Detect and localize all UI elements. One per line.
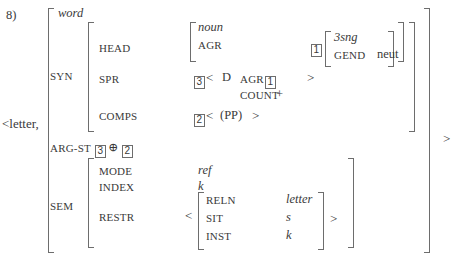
head-bracket-left xyxy=(190,22,196,62)
spr-count-value: + xyxy=(276,87,283,102)
restr-reln-label: RELN xyxy=(206,194,236,206)
restr-inst-label: INST xyxy=(206,230,231,242)
spr-count-label: COUNT xyxy=(240,89,279,101)
syn-bracket-right xyxy=(409,22,415,132)
head-agr-label: AGR xyxy=(198,39,222,51)
restr-inst-value: k xyxy=(286,228,292,243)
tag-box: 2 xyxy=(122,145,133,159)
sem-index-label: INDEX xyxy=(99,181,134,193)
sem-bracket-left xyxy=(88,158,94,248)
tag-box: 3 xyxy=(194,76,205,90)
spr-tag: 3 xyxy=(194,72,205,90)
lexeme-list-open: <letter, xyxy=(2,116,39,132)
spr-list-open: < xyxy=(206,70,213,86)
sem-mode-label: MODE xyxy=(99,165,132,177)
comps-list-close: > xyxy=(252,108,259,124)
restr-sit-value: s xyxy=(286,210,291,225)
syn-label: SYN xyxy=(50,70,73,82)
figure-number: 8) xyxy=(6,8,16,23)
restr-reln-value: letter xyxy=(286,192,312,207)
arg-st-first-tag: 3 xyxy=(95,141,106,159)
restr-matrix-bracket-left xyxy=(198,192,204,250)
head-label: HEAD xyxy=(99,42,130,54)
sem-restr-label: RESTR xyxy=(99,211,134,223)
syn-bracket-left xyxy=(88,22,94,132)
tag-box: 3 xyxy=(95,145,106,159)
spr-agr-label: AGR xyxy=(240,73,264,85)
lexeme-list-close: > xyxy=(443,131,450,147)
comps-tag: 2 xyxy=(194,110,205,128)
agr-gend-label: GEND xyxy=(334,49,365,61)
arg-st-second-tag: 2 xyxy=(122,141,133,159)
tag-box: 1 xyxy=(311,44,322,58)
sem-bracket-right xyxy=(348,158,354,248)
sem-mode-value: ref xyxy=(198,163,211,178)
head-agr-tag: 1 xyxy=(311,40,322,58)
restr-list-open: < xyxy=(185,208,192,224)
sem-label: SEM xyxy=(50,200,73,212)
restr-matrix-bracket-right xyxy=(318,192,324,250)
comps-label: COMPS xyxy=(99,110,137,122)
tag-box: 1 xyxy=(265,76,276,90)
outer-bracket-left xyxy=(48,8,54,253)
agr-type-3sng: 3sng xyxy=(334,30,358,45)
feature-structure-figure: { "figure": { "number": "8)", "lexeme_li… xyxy=(0,0,455,264)
outer-bracket-right xyxy=(424,8,430,253)
arg-st-operator: ⊕ xyxy=(108,140,118,155)
restr-sit-label: SIT xyxy=(206,212,223,224)
head-type-noun: noun xyxy=(198,20,223,35)
tag-box: 2 xyxy=(194,114,205,128)
arg-st-label: ARG-ST xyxy=(50,142,91,154)
comps-list-open: < xyxy=(206,108,213,124)
agr-gend-value: neut xyxy=(377,47,399,62)
spr-determiner: D xyxy=(222,70,231,85)
agr-value-bracket-left xyxy=(325,31,331,67)
type-word-label: word xyxy=(58,6,83,21)
spr-list-close: > xyxy=(307,70,314,86)
spr-agr-tag: 1 xyxy=(265,72,276,90)
restr-list-close: > xyxy=(330,211,337,227)
spr-label: SPR xyxy=(99,73,119,85)
comps-value: (PP) xyxy=(220,108,242,123)
